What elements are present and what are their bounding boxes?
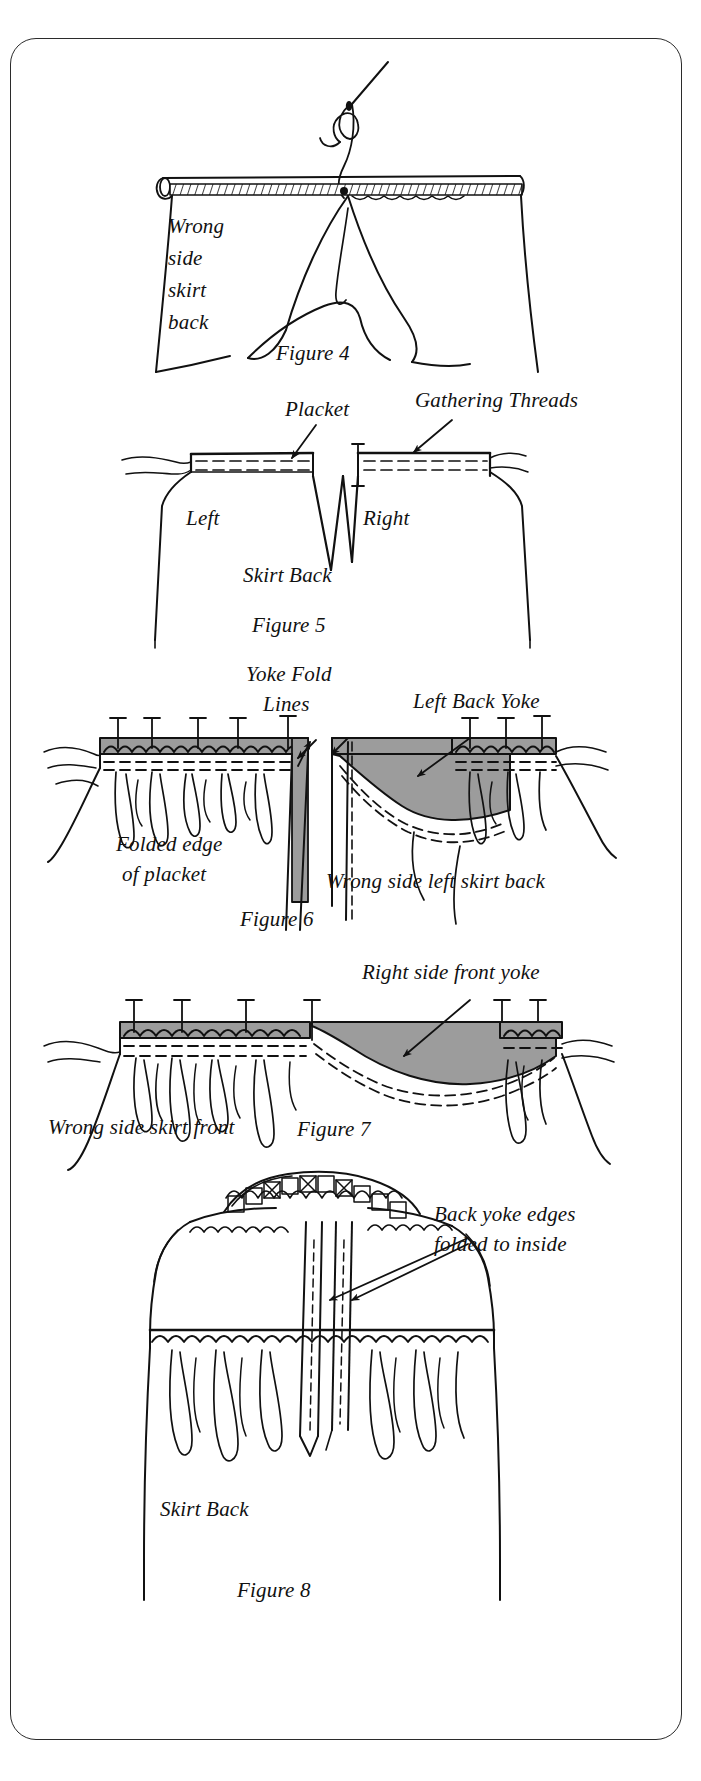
label-back-yoke-edges: Back yoke edges (434, 1202, 576, 1227)
label-of-placket: of placket (122, 862, 206, 887)
caption-figure-7: Figure 7 (297, 1117, 371, 1142)
figure-5-illustration (122, 420, 530, 648)
label-wrong-side-left-skirt-back: Wrong side left skirt back (326, 869, 545, 894)
label-folded-to-inside: folded to inside (434, 1232, 567, 1257)
label-skirt: skirt (168, 278, 206, 303)
label-lines: Lines (263, 692, 310, 717)
label-left: Left (186, 506, 219, 531)
label-right: Right (363, 506, 410, 531)
caption-figure-5: Figure 5 (252, 613, 326, 638)
label-skirt-back-fig8: Skirt Back (160, 1497, 249, 1522)
figure-7-illustration (44, 1000, 614, 1170)
label-back: back (168, 310, 208, 335)
label-yoke-fold: Yoke Fold (246, 662, 332, 687)
figure-6-illustration (44, 716, 616, 930)
label-wrong: Wrong (168, 214, 224, 239)
caption-figure-6: Figure 6 (240, 907, 314, 932)
label-gathering-threads: Gathering Threads (415, 388, 578, 413)
label-right-side-front-yoke: Right side front yoke (362, 960, 540, 985)
document-page: Wrong side skirt back Figure 4 Placket G… (0, 0, 701, 1781)
label-skirt-back-fig5: Skirt Back (243, 563, 332, 588)
label-wrong-side-skirt-front: Wrong side skirt front (48, 1115, 235, 1140)
caption-figure-4: Figure 4 (276, 341, 350, 366)
label-folded-edge: Folded edge (116, 832, 223, 857)
label-left-back-yoke: Left Back Yoke (413, 689, 540, 714)
label-side: side (168, 246, 203, 271)
caption-figure-8: Figure 8 (237, 1578, 311, 1603)
label-placket: Placket (285, 397, 349, 422)
